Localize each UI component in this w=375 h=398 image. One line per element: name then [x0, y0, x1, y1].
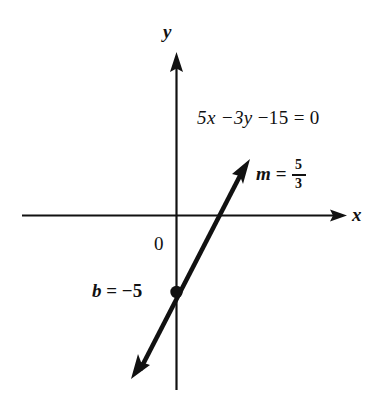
x-axis-label: x [352, 205, 362, 224]
equation-term-2: −3y [221, 107, 253, 128]
slope-numerator: 5 [293, 158, 304, 174]
equation-equals: = [294, 107, 305, 128]
slope-symbol: m [256, 164, 271, 183]
equation-term-3: −15 [258, 107, 289, 128]
equation-annotation: 5x−3y−15=0 [197, 108, 320, 127]
graph-canvas [0, 0, 375, 398]
slope-fraction: 5 3 [292, 158, 306, 191]
y-intercept-point [170, 286, 182, 298]
slope-equals: = [276, 164, 287, 183]
slope-denominator: 3 [293, 176, 304, 192]
intercept-value: −5 [122, 280, 142, 301]
y-axis-label: y [163, 22, 171, 41]
origin-label: 0 [154, 234, 164, 253]
slope-annotation: m = 5 3 [256, 157, 306, 190]
intercept-annotation: b = −5 [92, 281, 142, 300]
intercept-symbol: b [92, 280, 102, 301]
equation-term-1: 5x [197, 107, 216, 128]
line-graph-figure: y x 0 5x−3y−15=0 m = 5 3 b = −5 [0, 0, 375, 398]
plotted-line [140, 170, 243, 370]
equation-rhs: 0 [310, 107, 320, 128]
line-arrowhead-upper [232, 159, 250, 184]
intercept-equals: = [106, 280, 117, 301]
